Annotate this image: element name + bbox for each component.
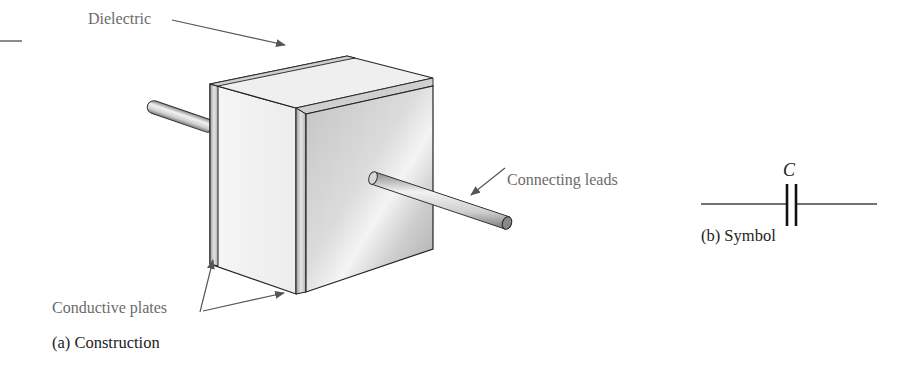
capacitor-figure: Dielectric Connecting leads Conductive p…: [0, 0, 917, 365]
conductive-plates-label: Conductive plates: [52, 299, 167, 317]
caption-construction: (a) Construction: [52, 333, 160, 353]
dielectric-label: Dielectric: [88, 10, 151, 28]
conductive-plate-front: [296, 108, 306, 294]
capacitor-symbol: [701, 184, 877, 226]
caption-symbol: (b) Symbol: [701, 226, 776, 246]
conductive-plate-left: [210, 84, 218, 266]
plates-arrow-1: [200, 260, 213, 312]
leads-arrow: [471, 168, 505, 195]
dielectric-side-face: [210, 84, 296, 294]
dielectric-arrow: [172, 20, 285, 45]
plates-arrow-2: [203, 293, 284, 311]
left-lead: [145, 99, 215, 134]
capacitance-label: C: [783, 160, 795, 181]
connecting-leads-label: Connecting leads: [507, 171, 618, 189]
